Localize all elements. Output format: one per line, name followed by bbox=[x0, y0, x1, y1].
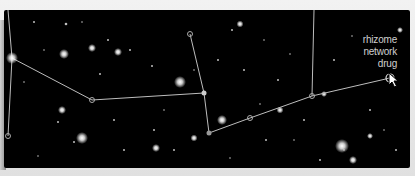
node-d bbox=[202, 91, 207, 96]
tooltip-line-2: network bbox=[363, 46, 397, 58]
tooltip-line-1: rhizome bbox=[363, 34, 397, 46]
node-a bbox=[6, 52, 18, 64]
arrow-pointer-icon bbox=[388, 72, 400, 92]
bright-stars bbox=[58, 21, 403, 165]
star-map-canvas[interactable] bbox=[4, 10, 410, 168]
node-tooltip: rhizome network drug bbox=[363, 34, 397, 70]
tooltip-line-3: drug bbox=[363, 58, 397, 70]
constellation-graph bbox=[4, 10, 410, 168]
network-edges bbox=[8, 10, 390, 136]
node-f bbox=[207, 131, 212, 136]
